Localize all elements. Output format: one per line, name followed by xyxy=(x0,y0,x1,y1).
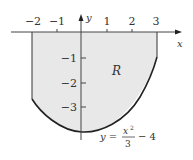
x-tick-label: 3 xyxy=(153,15,160,28)
y-tick-label: −3 xyxy=(61,101,77,114)
x-tick-label: 1 xyxy=(104,15,111,28)
x-tick-label: 2 xyxy=(129,15,136,28)
equation-lhs: y = xyxy=(99,131,117,142)
y-axis-arrow-icon xyxy=(79,14,84,21)
equation-denominator: 3 xyxy=(125,139,131,149)
x-tick-label: −1 xyxy=(49,15,65,28)
equation-numerator: x xyxy=(123,126,128,136)
y-tick-label: −1 xyxy=(61,52,77,65)
y-tick-label: −2 xyxy=(61,77,77,90)
y-axis-label: y xyxy=(85,12,92,23)
equation-rest: − 4 xyxy=(138,131,156,142)
x-axis-arrow-icon xyxy=(175,30,182,35)
x-axis-label: x xyxy=(177,38,183,49)
region-diagram: −2 −1 1 2 3 −1 −2 −3 y x R y = x 2 3 − 4 xyxy=(0,0,193,160)
equation-exponent: 2 xyxy=(130,124,134,131)
shaded-region xyxy=(32,32,157,132)
x-tick-label: −2 xyxy=(25,15,41,28)
region-label: R xyxy=(111,64,121,78)
